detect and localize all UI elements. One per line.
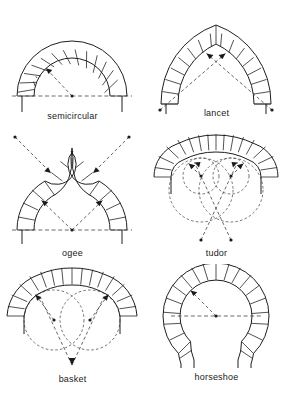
lancet-drawing [144, 0, 289, 118]
tudor-voussoirs [154, 134, 278, 194]
arch-diagram-lancet: lancet [144, 0, 289, 132]
horseshoe-drawing [144, 264, 289, 376]
radius-arrow [46, 68, 74, 97]
arch-diagram-ogee: ogee [0, 132, 145, 264]
outer-radius-arrows [13, 135, 130, 173]
ogee-voussoirs [17, 148, 127, 230]
arch-types-figure: semicircular [0, 0, 289, 395]
arch-label-ogee: ogee [0, 248, 145, 258]
arch-label-lancet: lancet [144, 108, 289, 118]
construction-circles [169, 158, 263, 222]
lancet-voussoirs [161, 25, 271, 104]
ogee-drawing [0, 132, 145, 252]
arch-diagram-tudor: tudor [144, 132, 289, 264]
arch-diagram-horseshoe: horseshoe [144, 264, 289, 395]
arch-label-semicircular: semicircular [0, 111, 145, 121]
inner-radius-arrows [42, 201, 103, 232]
basket-voussoirs [7, 268, 137, 334]
arch-label-tudor: tudor [144, 248, 289, 258]
radius-arrows [36, 294, 109, 366]
arch-diagram-basket: basket [0, 264, 145, 395]
semicircular-drawing [0, 0, 145, 118]
semicircular-voussoirs [17, 41, 127, 96]
arch-diagram-semicircular: semicircular [0, 0, 145, 132]
arch-label-basket: basket [0, 374, 145, 384]
radius-arrow [191, 291, 218, 318]
arch-label-horseshoe: horseshoe [144, 372, 289, 382]
basket-drawing [0, 264, 145, 376]
tudor-drawing [144, 132, 289, 252]
